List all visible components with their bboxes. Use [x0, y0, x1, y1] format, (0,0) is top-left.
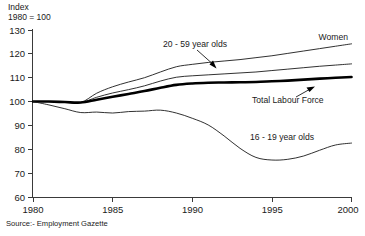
annotation-20-59-arrow [197, 50, 217, 69]
chart-page: Index 1980 = 100 130 120 110 100 90 80 7… [0, 0, 365, 236]
y-axis-ticks [28, 30, 33, 197]
y-tick-label-80: 80 [14, 144, 25, 155]
line-chart: Index 1980 = 100 130 120 110 100 90 80 7… [0, 0, 365, 236]
annotation-20-59-label: 20 - 59 year olds [163, 39, 227, 49]
x-tick-label-1980: 1980 [22, 204, 43, 215]
source-note: Source:- Employment Gazette [6, 219, 108, 228]
y-tick-label-60: 60 [14, 192, 25, 203]
x-axis-ticks [33, 198, 352, 203]
y-tick-label-110: 110 [10, 72, 25, 83]
annotation-16-19-label: 16 - 19 year olds [250, 132, 314, 142]
y-tick-label-130: 130 [9, 25, 25, 36]
x-tick-label-1985: 1985 [102, 204, 123, 215]
y-tick-label-120: 120 [9, 48, 25, 59]
x-tick-label-1990: 1990 [182, 204, 203, 215]
y-axis-caption-line1: Index [8, 2, 30, 12]
y-tick-label-70: 70 [14, 168, 25, 179]
y-tick-label-100: 100 [9, 96, 25, 107]
x-tick-label-2000: 2000 [337, 204, 358, 215]
y-tick-label-90: 90 [14, 120, 25, 131]
series-line-16-19-year-olds [33, 102, 352, 161]
annotation-total-labour-force-label: Total Labour Force [252, 95, 324, 105]
y-axis-caption-line2: 1980 = 100 [8, 12, 51, 22]
annotation-women-label: Women [319, 32, 349, 42]
x-tick-label-1995: 1995 [262, 204, 283, 215]
